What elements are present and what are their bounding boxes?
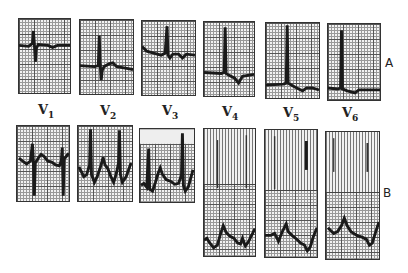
ecg-trace xyxy=(265,130,317,257)
ecg-panel-b-v1 xyxy=(16,125,70,202)
ecg-trace xyxy=(19,19,70,93)
ecg-trace xyxy=(17,126,69,201)
ecg-panel-b-v4 xyxy=(203,128,256,257)
ecg-panel-a-v5 xyxy=(265,22,320,99)
ecg-panel-a-v2 xyxy=(79,19,134,95)
ecg-panel-b-v2 xyxy=(77,125,133,202)
lead-label-v1: V1 xyxy=(38,102,54,120)
ecg-panel-b-v3 xyxy=(139,128,195,203)
ecg-trace xyxy=(142,21,195,95)
ecg-panel-b-v5 xyxy=(264,129,318,258)
ecg-trace xyxy=(326,132,379,259)
ecg-panel-a-v3 xyxy=(141,20,196,96)
row-label-a: A xyxy=(385,56,393,70)
lead-label-v5: V5 xyxy=(283,105,299,123)
lead-label-v3: V3 xyxy=(162,103,178,121)
row-label-b: B xyxy=(383,186,391,200)
ecg-trace xyxy=(204,129,255,256)
ecg-panel-a-v1 xyxy=(18,18,71,94)
ecg-trace xyxy=(140,129,194,202)
lead-label-v2: V2 xyxy=(100,103,116,121)
ecg-panel-a-v6 xyxy=(327,23,381,101)
ecg-trace xyxy=(204,22,254,96)
lead-label-v6: V6 xyxy=(342,105,358,123)
lead-label-v4: V4 xyxy=(222,104,238,122)
ecg-trace xyxy=(80,20,133,94)
ecg-panel-b-v6 xyxy=(325,131,380,260)
ecg-panel-a-v4 xyxy=(203,21,255,97)
ecg-trace xyxy=(328,24,380,100)
ecg-trace xyxy=(78,126,132,201)
ecg-trace xyxy=(266,23,319,98)
